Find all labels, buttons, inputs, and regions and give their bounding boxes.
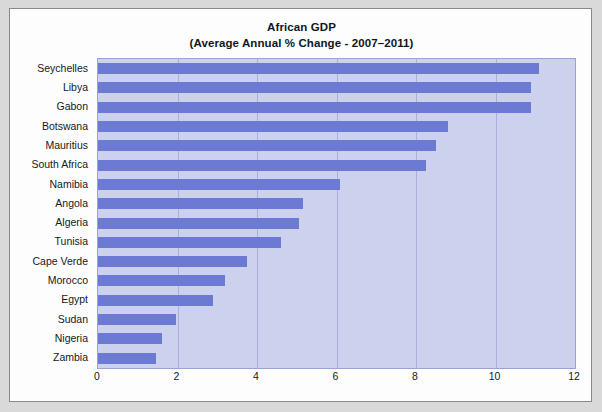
bar — [98, 314, 176, 325]
bar — [98, 275, 225, 286]
y-axis-tick-row: Namibia — [10, 174, 93, 193]
y-axis-tick-row: Algeria — [10, 213, 93, 232]
bar — [98, 63, 539, 74]
bar — [98, 256, 247, 267]
y-axis-tick-label: Botswana — [42, 120, 88, 132]
y-axis-tick-row: Sudan — [10, 309, 93, 328]
y-axis-tick-label: Angola — [55, 197, 88, 209]
y-axis-tick-label: Nigeria — [55, 332, 88, 344]
y-axis-tick-row: Mauritius — [10, 135, 93, 154]
bar — [98, 179, 340, 190]
x-axis-tick-label: 2 — [174, 370, 180, 382]
x-axis-tick-label: 4 — [253, 370, 259, 382]
y-axis-tick-label: Sudan — [58, 313, 88, 325]
bar — [98, 218, 299, 229]
bar-row — [98, 117, 575, 136]
bar-row — [98, 291, 575, 310]
bar-row — [98, 156, 575, 175]
y-axis-tick-row: Libya — [10, 77, 93, 96]
chart-subtitle: (Average Annual % Change - 2007–2011) — [10, 35, 593, 51]
bar-row — [98, 59, 575, 78]
x-axis-tick-label: 6 — [333, 370, 339, 382]
bar-row — [98, 214, 575, 233]
x-axis-labels: 024681012 — [97, 370, 576, 390]
plot-area — [97, 58, 576, 369]
y-axis-tick-row: Morocco — [10, 270, 93, 289]
bar-row — [98, 194, 575, 213]
y-axis-tick-label: South Africa — [31, 158, 88, 170]
bar-row — [98, 98, 575, 117]
y-axis-tick-row: Cape Verde — [10, 251, 93, 270]
bar — [98, 198, 303, 209]
x-axis-tick-label: 8 — [412, 370, 418, 382]
bar — [98, 140, 436, 151]
bar-row — [98, 252, 575, 271]
y-axis-tick-label: Algeria — [55, 216, 88, 228]
y-axis-tick-label: Morocco — [48, 274, 88, 286]
bar-row — [98, 349, 575, 368]
bar-row — [98, 175, 575, 194]
y-axis-tick-label: Seychelles — [37, 62, 88, 74]
y-axis-tick-row: Botswana — [10, 116, 93, 135]
y-axis-tick-row: Nigeria — [10, 328, 93, 347]
bar — [98, 160, 426, 171]
y-axis-tick-label: Zambia — [53, 351, 88, 363]
chart-card: African GDP (Average Annual % Change - 2… — [9, 8, 592, 402]
bar — [98, 295, 213, 306]
y-axis-tick-row: Gabon — [10, 97, 93, 116]
bar-series — [98, 59, 575, 368]
bar-row — [98, 271, 575, 290]
x-axis-tick-label: 10 — [489, 370, 501, 382]
bar — [98, 237, 281, 248]
y-axis-tick-row: Egypt — [10, 290, 93, 309]
bar-row — [98, 78, 575, 97]
y-axis-tick-label: Gabon — [56, 100, 88, 112]
y-axis-tick-row: Angola — [10, 193, 93, 212]
bar-row — [98, 233, 575, 252]
y-axis-tick-label: Namibia — [49, 178, 88, 190]
y-axis-tick-row: Tunisia — [10, 232, 93, 251]
chart-title: African GDP — [10, 19, 593, 35]
y-axis-labels: SeychellesLibyaGabonBotswanaMauritiusSou… — [10, 58, 93, 367]
bar — [98, 102, 531, 113]
y-axis-tick-label: Mauritius — [45, 139, 88, 151]
bar — [98, 333, 162, 344]
y-axis-tick-row: Seychelles — [10, 58, 93, 77]
bar — [98, 353, 156, 364]
bar — [98, 82, 531, 93]
bar — [98, 121, 448, 132]
chart-title-block: African GDP (Average Annual % Change - 2… — [10, 19, 593, 51]
x-axis-tick-label: 12 — [568, 370, 580, 382]
x-axis-tick-label: 0 — [94, 370, 100, 382]
bar-row — [98, 329, 575, 348]
bar-row — [98, 136, 575, 155]
y-axis-tick-label: Tunisia — [55, 235, 88, 247]
y-axis-tick-row: Zambia — [10, 348, 93, 367]
chart-page: African GDP (Average Annual % Change - 2… — [0, 0, 602, 412]
y-axis-tick-row: South Africa — [10, 155, 93, 174]
y-axis-tick-label: Libya — [63, 81, 88, 93]
y-axis-tick-label: Cape Verde — [33, 255, 88, 267]
y-axis-tick-label: Egypt — [61, 293, 88, 305]
bar-row — [98, 310, 575, 329]
